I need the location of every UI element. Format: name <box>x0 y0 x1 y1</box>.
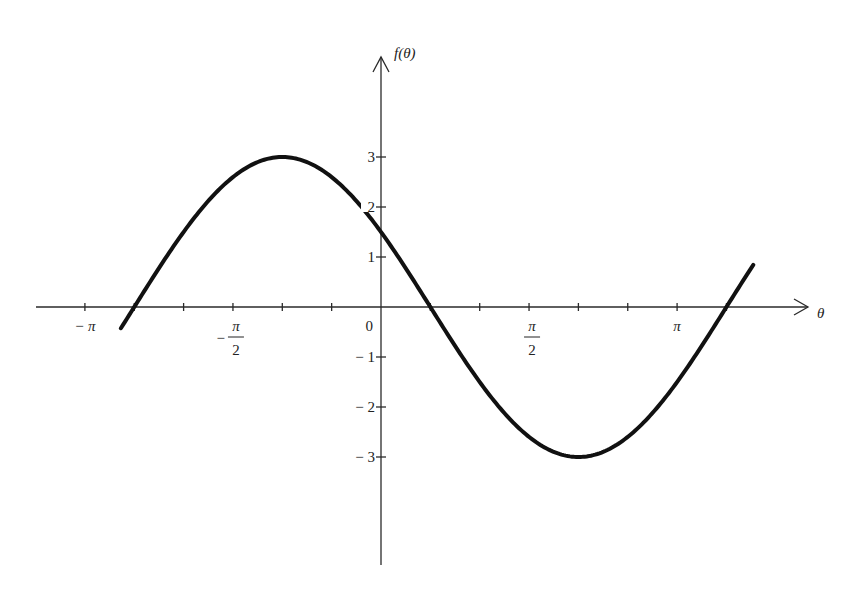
y-tick-label: 1 <box>368 249 376 265</box>
fraction-denominator: 2 <box>528 342 536 358</box>
x-axis-label: θ <box>817 305 825 321</box>
x-tick-label-fraction: π2 <box>524 318 540 358</box>
y-axis-label: f(θ) <box>394 45 416 62</box>
y-tick-label: − 2 <box>355 399 375 415</box>
y-tick-label: − 1 <box>355 349 375 365</box>
axes <box>36 57 808 565</box>
x-tick-label: − π <box>74 318 96 334</box>
minus-sign: − <box>216 330 224 346</box>
sine-chart: 321− 1− 2− 3 − π−π20π2π f(θ) θ <box>0 0 853 590</box>
y-tick-label: 3 <box>368 149 376 165</box>
x-tick-label: π <box>673 318 681 334</box>
fraction-numerator: π <box>232 318 240 334</box>
y-tick-label: 2 <box>368 199 376 215</box>
fraction-numerator: π <box>528 318 536 334</box>
x-tick-label-fraction: −π2 <box>216 318 243 358</box>
y-tick-label: − 3 <box>355 449 375 465</box>
fraction-denominator: 2 <box>232 342 240 358</box>
x-tick-label-origin: 0 <box>366 318 374 334</box>
x-tick-labels: − π−π20π2π <box>74 318 681 358</box>
